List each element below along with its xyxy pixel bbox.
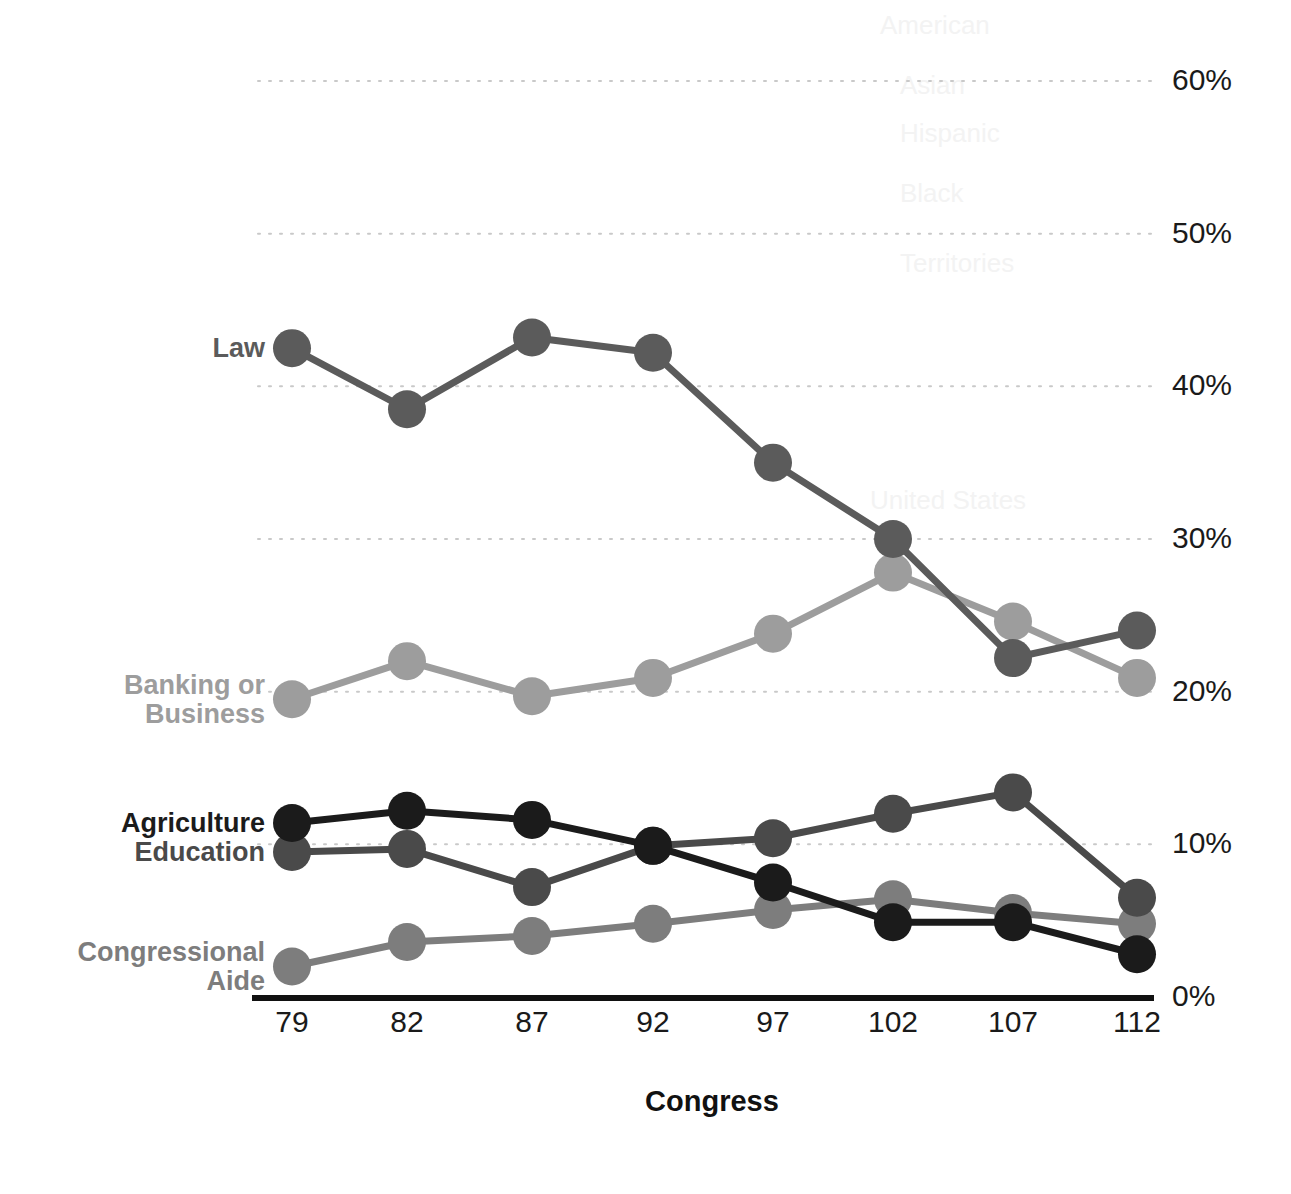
data-point[interactable] bbox=[388, 830, 426, 868]
series-label-banking-or-business: Banking or Business bbox=[124, 671, 265, 728]
x-axis-tick-label: 82 bbox=[390, 1005, 423, 1039]
data-point[interactable] bbox=[634, 659, 672, 697]
data-point[interactable] bbox=[994, 773, 1032, 811]
x-axis-tick-label: 92 bbox=[636, 1005, 669, 1039]
x-axis-tick-label: 102 bbox=[868, 1005, 918, 1039]
data-point[interactable] bbox=[874, 554, 912, 592]
data-point[interactable] bbox=[513, 318, 551, 356]
data-point[interactable] bbox=[874, 903, 912, 941]
x-axis-tick-label: 97 bbox=[756, 1005, 789, 1039]
data-point[interactable] bbox=[388, 642, 426, 680]
data-point[interactable] bbox=[994, 639, 1032, 677]
y-axis-tick-label: 40% bbox=[1172, 368, 1232, 402]
data-point[interactable] bbox=[634, 334, 672, 372]
y-axis-tick-label: 30% bbox=[1172, 521, 1232, 555]
y-axis-tick-label: 10% bbox=[1172, 826, 1232, 860]
x-axis-tick-label: 112 bbox=[1113, 1005, 1161, 1039]
data-point[interactable] bbox=[388, 792, 426, 830]
data-point[interactable] bbox=[388, 923, 426, 961]
series-label-congressional-aide: Congressional Aide bbox=[77, 938, 265, 995]
data-point[interactable] bbox=[634, 905, 672, 943]
data-point[interactable] bbox=[273, 329, 311, 367]
data-point[interactable] bbox=[754, 819, 792, 857]
series-banking-or-business bbox=[273, 554, 1156, 719]
y-axis-tick-label: 50% bbox=[1172, 216, 1232, 250]
data-point[interactable] bbox=[388, 390, 426, 428]
data-point[interactable] bbox=[273, 947, 311, 985]
data-point[interactable] bbox=[634, 827, 672, 865]
data-point[interactable] bbox=[754, 864, 792, 902]
data-point[interactable] bbox=[273, 680, 311, 718]
data-point[interactable] bbox=[1118, 935, 1156, 973]
data-point[interactable] bbox=[513, 801, 551, 839]
series-label-education: Education bbox=[134, 838, 265, 866]
series-label-law: Law bbox=[212, 334, 265, 362]
line-chart: United StatesTerritoriesBlackHispanicAsi… bbox=[0, 0, 1291, 1194]
data-point[interactable] bbox=[1118, 879, 1156, 917]
x-axis-tick-label: 107 bbox=[988, 1005, 1038, 1039]
y-axis-tick-label: 0% bbox=[1172, 979, 1215, 1013]
data-point[interactable] bbox=[754, 444, 792, 482]
y-axis-tick-label: 20% bbox=[1172, 674, 1232, 708]
x-axis-tick-label: 79 bbox=[275, 1005, 308, 1039]
data-point[interactable] bbox=[273, 804, 311, 842]
data-point[interactable] bbox=[513, 677, 551, 715]
data-point[interactable] bbox=[874, 520, 912, 558]
data-point[interactable] bbox=[994, 903, 1032, 941]
data-point[interactable] bbox=[1118, 659, 1156, 697]
y-axis-tick-label: 60% bbox=[1172, 63, 1232, 97]
data-point[interactable] bbox=[994, 602, 1032, 640]
data-point[interactable] bbox=[1118, 612, 1156, 650]
series-label-agriculture: Agriculture bbox=[121, 809, 265, 837]
data-point[interactable] bbox=[754, 615, 792, 653]
data-point[interactable] bbox=[874, 795, 912, 833]
data-point[interactable] bbox=[513, 917, 551, 955]
x-axis-title: Congress bbox=[645, 1085, 779, 1118]
data-point[interactable] bbox=[513, 868, 551, 906]
x-axis-tick-label: 87 bbox=[515, 1005, 548, 1039]
